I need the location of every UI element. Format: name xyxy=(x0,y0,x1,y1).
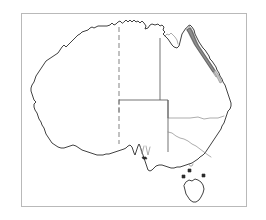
figure-container xyxy=(0,0,266,220)
king-island xyxy=(182,175,185,178)
kangaroo-island xyxy=(142,157,147,159)
port-phillip-detail xyxy=(189,164,193,166)
flinders-island xyxy=(202,174,205,177)
map-frame xyxy=(21,13,247,207)
australia-map xyxy=(22,14,248,208)
tasmania xyxy=(184,179,204,202)
bass-strait-islet xyxy=(188,169,191,172)
mainland-coastline xyxy=(31,20,231,171)
